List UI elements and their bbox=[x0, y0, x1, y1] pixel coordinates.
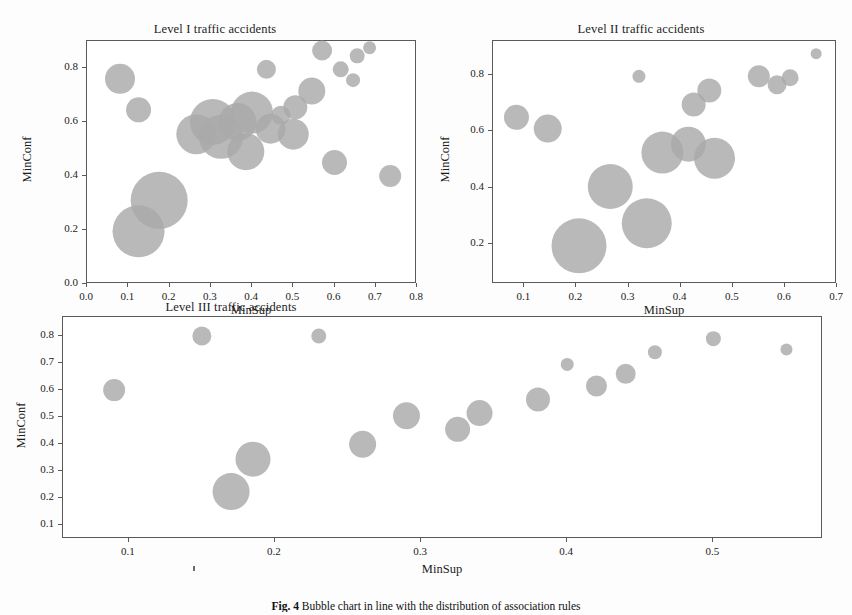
x-tick-mark bbox=[732, 283, 733, 287]
y-tick-label: 0.2 bbox=[450, 236, 484, 248]
y-tick-mark bbox=[488, 187, 492, 188]
x-tick-mark bbox=[784, 283, 785, 287]
x-tick-mark bbox=[128, 538, 129, 542]
y-tick-label: 0.4 bbox=[44, 168, 78, 180]
bubble-marker bbox=[534, 115, 562, 143]
y-tick-mark bbox=[488, 130, 492, 131]
bubble-marker bbox=[333, 61, 349, 77]
bubble-marker bbox=[393, 402, 420, 429]
x-tick-mark bbox=[566, 538, 567, 542]
bubble-series-level-3 bbox=[63, 317, 823, 539]
bubble-marker bbox=[622, 198, 672, 248]
y-tick-label: 0.3 bbox=[20, 463, 54, 475]
bubble-marker bbox=[748, 65, 770, 87]
x-tick-mark bbox=[836, 283, 837, 287]
y-tick-label: 0.1 bbox=[20, 517, 54, 529]
bubble-marker bbox=[648, 345, 662, 359]
bubble-marker bbox=[697, 78, 721, 102]
x-tick-mark bbox=[127, 283, 128, 287]
bubble-marker bbox=[349, 431, 376, 458]
bubble-marker bbox=[616, 364, 636, 384]
bubble-marker bbox=[782, 69, 799, 86]
x-tick-mark bbox=[712, 538, 713, 542]
bubble-marker bbox=[379, 165, 401, 187]
bubble-marker bbox=[103, 379, 125, 401]
bubble-marker bbox=[346, 73, 360, 87]
x-tick-mark bbox=[251, 283, 252, 287]
panel-title-level-3: Level III traffic accidents bbox=[0, 300, 462, 315]
plot-area-level-2 bbox=[492, 40, 836, 283]
y-tick-mark bbox=[82, 229, 86, 230]
bubble-series-level-1 bbox=[87, 41, 417, 284]
bubble-marker bbox=[192, 326, 211, 345]
plot-area-level-1 bbox=[86, 40, 416, 283]
y-tick-label: 0.4 bbox=[20, 436, 54, 448]
bubble-marker bbox=[586, 376, 607, 397]
x-axis-label-level-3: MinSup bbox=[62, 562, 822, 577]
y-tick-mark bbox=[58, 524, 62, 525]
y-tick-mark bbox=[58, 470, 62, 471]
bubble-marker bbox=[504, 105, 529, 130]
bubble-marker bbox=[467, 400, 493, 426]
bubble-marker bbox=[213, 473, 250, 510]
x-tick-mark bbox=[292, 283, 293, 287]
x-tick-label: 0.5 bbox=[694, 545, 730, 557]
y-tick-mark bbox=[58, 362, 62, 363]
panel-level-1: Level I traffic accidents MinConf MinSup… bbox=[0, 22, 430, 312]
y-tick-mark bbox=[82, 67, 86, 68]
panel-level-3: Level III traffic accidents MinConf MinS… bbox=[0, 300, 852, 590]
y-tick-label: 0.0 bbox=[44, 276, 78, 288]
bubble-marker bbox=[257, 60, 276, 79]
x-tick-mark bbox=[628, 283, 629, 287]
bubble-marker bbox=[298, 77, 325, 104]
panel-title-level-1: Level I traffic accidents bbox=[0, 22, 430, 37]
bubble-marker bbox=[632, 70, 645, 83]
x-tick-mark bbox=[274, 538, 275, 542]
bubble-marker bbox=[363, 41, 376, 54]
stray-print-mark bbox=[193, 566, 195, 571]
bubble-marker bbox=[445, 417, 470, 442]
x-tick-label: 0.3 bbox=[402, 545, 438, 557]
y-tick-mark bbox=[58, 443, 62, 444]
y-tick-label: 0.8 bbox=[450, 67, 484, 79]
bubble-marker bbox=[350, 48, 365, 63]
y-tick-label: 0.7 bbox=[20, 355, 54, 367]
bubble-marker bbox=[311, 328, 326, 343]
y-tick-mark bbox=[58, 389, 62, 390]
bubble-marker bbox=[227, 133, 264, 170]
bubble-marker bbox=[811, 48, 822, 59]
bubble-marker bbox=[236, 442, 271, 477]
y-tick-label: 0.2 bbox=[20, 490, 54, 502]
bubble-marker bbox=[278, 119, 309, 150]
x-tick-mark bbox=[420, 538, 421, 542]
y-tick-label: 0.6 bbox=[44, 114, 78, 126]
bubble-marker bbox=[694, 138, 735, 179]
caption-body: Bubble chart in line with the distributi… bbox=[302, 600, 581, 612]
caption-label: Fig. 4 bbox=[271, 600, 298, 612]
bubble-marker bbox=[312, 40, 332, 60]
y-tick-mark bbox=[488, 74, 492, 75]
x-tick-label: 0.4 bbox=[548, 545, 584, 557]
bubble-marker bbox=[780, 343, 792, 355]
bubble-marker bbox=[105, 64, 135, 94]
x-tick-label: 0.2 bbox=[256, 545, 292, 557]
x-tick-mark bbox=[210, 283, 211, 287]
bubble-marker bbox=[126, 97, 151, 122]
y-tick-mark bbox=[58, 335, 62, 336]
bubble-marker bbox=[526, 388, 550, 412]
y-tick-mark bbox=[82, 121, 86, 122]
bubble-marker bbox=[561, 358, 574, 371]
y-tick-label: 0.5 bbox=[20, 409, 54, 421]
y-axis-label-level-1: MinConf bbox=[20, 130, 35, 190]
y-tick-label: 0.2 bbox=[44, 222, 78, 234]
x-tick-mark bbox=[375, 283, 376, 287]
y-tick-label: 0.6 bbox=[20, 382, 54, 394]
bubble-marker bbox=[552, 218, 607, 273]
y-tick-mark bbox=[488, 243, 492, 244]
panel-level-2: Level II traffic accidents MinConf MinSu… bbox=[430, 22, 852, 312]
y-tick-label: 0.4 bbox=[450, 180, 484, 192]
y-tick-mark bbox=[82, 283, 86, 284]
x-tick-mark bbox=[523, 283, 524, 287]
bubble-series-level-2 bbox=[493, 41, 837, 284]
plot-area-level-3 bbox=[62, 316, 822, 538]
